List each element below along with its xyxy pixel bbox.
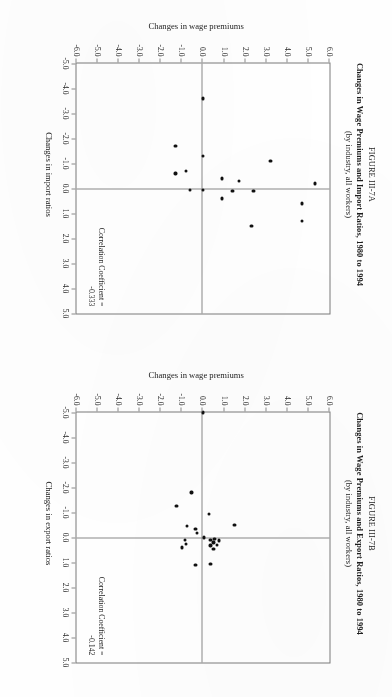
scatter-point	[175, 504, 178, 507]
scatter-point	[207, 512, 210, 515]
scatter-point	[232, 523, 235, 526]
xaxis-tick	[71, 238, 75, 239]
figure-a-label: FIGURE III-7A	[364, 0, 376, 348]
xaxis-tick	[71, 462, 75, 463]
yaxis-tick-label: 1.0	[219, 30, 228, 56]
scatter-point	[251, 189, 254, 192]
xaxis-tick	[71, 88, 75, 89]
yaxis-tick	[159, 58, 160, 62]
scatter-point	[208, 543, 211, 546]
yaxis-tick-label: 4.0	[282, 30, 291, 56]
yaxis-tick	[96, 407, 97, 411]
xaxis-tick-label: -2.0	[60, 132, 69, 144]
xaxis-tick-label: 5.0	[60, 657, 69, 667]
scatter-point	[195, 531, 198, 534]
yaxis-tick-label: -3.0	[135, 379, 144, 405]
xaxis-tick	[71, 512, 75, 513]
xaxis-tick-label: -3.0	[60, 107, 69, 119]
yaxis-tick-label: 5.0	[303, 30, 312, 56]
xaxis-tick-label: 3.0	[60, 607, 69, 617]
yaxis-tick-label: 6.0	[325, 30, 334, 56]
yaxis-tick-label: 2.0	[240, 379, 249, 405]
xaxis-tick-label: 4.0	[60, 632, 69, 642]
xaxis-tick	[71, 163, 75, 164]
yaxis-tick	[286, 407, 287, 411]
xaxis-tick	[71, 662, 75, 663]
figure-a-title-block: FIGURE III-7A Changes in Wage Premiums a…	[341, 0, 376, 348]
yaxis-tick	[138, 407, 139, 411]
xaxis-tick-label: -3.0	[60, 456, 69, 468]
yaxis-tick	[75, 58, 76, 62]
figure-iii-7a: FIGURE III-7A Changes in Wage Premiums a…	[0, 0, 392, 348]
figure-b-subtitle: (by industry, all workers)	[341, 349, 353, 697]
yaxis-tick-label: 3.0	[261, 30, 270, 56]
xaxis-tick	[71, 313, 75, 314]
figure-b-title-block: FIGURE III-7B Changes in Wage Premiums a…	[341, 349, 376, 697]
yaxis-tick	[244, 407, 245, 411]
scatter-point	[188, 188, 191, 191]
xaxis-tick	[71, 562, 75, 563]
scatter-point	[208, 562, 211, 565]
scatter-point	[173, 171, 176, 174]
xaxis-tick	[71, 487, 75, 488]
scatter-point	[300, 219, 303, 222]
xaxis-tick	[71, 412, 75, 413]
scatter-point	[249, 224, 252, 227]
yaxis-tick	[328, 58, 329, 62]
xaxis-tick	[71, 612, 75, 613]
yaxis-tick-label: -1.0	[177, 379, 186, 405]
yaxis-tick	[223, 58, 224, 62]
xaxis-tick-label: 1.0	[60, 557, 69, 567]
scatter-point	[193, 563, 196, 566]
scatter-point	[180, 545, 183, 548]
yaxis-tick	[159, 407, 160, 411]
scatter-point	[220, 196, 223, 199]
yaxis-tick-label: 2.0	[240, 30, 249, 56]
figure-b-correlation-line1: Correlation Coefficient =	[95, 551, 105, 655]
scatter-point	[185, 524, 188, 527]
scatter-point	[230, 189, 233, 192]
yaxis-tick	[202, 58, 203, 62]
yaxis-tick	[328, 407, 329, 411]
xaxis-tick-label: 0.0	[60, 183, 69, 193]
xaxis-tick	[71, 188, 75, 189]
scatter-point	[300, 201, 303, 204]
xaxis-tick	[71, 637, 75, 638]
scatter-point	[193, 527, 196, 530]
yaxis-tick	[180, 58, 181, 62]
scatter-point	[201, 188, 204, 191]
scatter-point	[173, 144, 176, 147]
figure-b-correlation-annotation: Correlation Coefficient = -0.142	[85, 551, 105, 655]
xaxis-tick-label: 1.0	[60, 208, 69, 218]
yaxis-tick-label: -3.0	[135, 30, 144, 56]
xaxis-tick-label: -5.0	[60, 406, 69, 418]
yaxis-tick-label: -5.0	[93, 379, 102, 405]
xaxis-tick-label: 0.0	[60, 532, 69, 542]
scatter-point	[313, 181, 316, 184]
scatter-point	[217, 538, 220, 541]
figure-b-xaxis-label: Changes in export ratios	[43, 349, 53, 697]
yaxis-tick	[244, 58, 245, 62]
scatter-point	[184, 542, 187, 545]
xaxis-tick-label: -2.0	[60, 481, 69, 493]
yaxis-tick-label: 0.0	[198, 379, 207, 405]
xaxis-tick	[71, 113, 75, 114]
yaxis-tick-label: 3.0	[261, 379, 270, 405]
figure-b-label: FIGURE III-7B	[364, 349, 376, 697]
yaxis-tick-label: -5.0	[93, 30, 102, 56]
scatter-point	[237, 179, 240, 182]
scatter-point	[201, 96, 204, 99]
figure-b-correlation-value: -0.142	[85, 551, 95, 655]
figure-a-plot-area	[75, 62, 330, 314]
yaxis-tick-label: -6.0	[72, 30, 81, 56]
yaxis-tick-label: -6.0	[72, 379, 81, 405]
scatter-point	[189, 490, 192, 493]
figure-a-subtitle: (by industry, all workers)	[341, 0, 353, 348]
yaxis-tick	[223, 407, 224, 411]
xaxis-tick-label: 4.0	[60, 283, 69, 293]
xaxis-tick-label: 2.0	[60, 233, 69, 243]
yaxis-tick	[286, 58, 287, 62]
xaxis-tick-label: -5.0	[60, 57, 69, 69]
scatter-point	[208, 538, 211, 541]
yaxis-tick-label: -4.0	[114, 379, 123, 405]
